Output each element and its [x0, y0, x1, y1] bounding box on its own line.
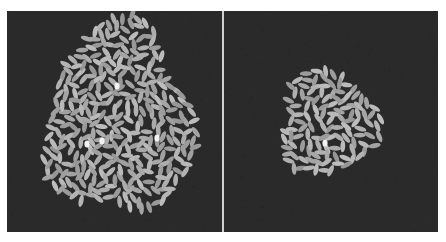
rice-grains-left	[7, 11, 222, 232]
rice-grains-right	[224, 11, 438, 232]
rice-image-left	[7, 11, 222, 232]
rice-image-right	[224, 11, 438, 232]
